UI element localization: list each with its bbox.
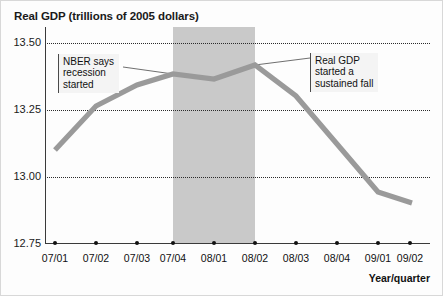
x-axis-title: Year/quarter xyxy=(369,272,430,284)
xtick-label-4: 08/01 xyxy=(201,252,227,264)
nber-annotation-line-2: recession xyxy=(63,67,114,78)
ytick-label: 13.50 xyxy=(13,36,41,48)
xtick-dot xyxy=(53,241,57,245)
xtick-dot xyxy=(135,241,139,245)
xtick-dot xyxy=(376,241,380,245)
chart-title: Real GDP (trillions of 2005 dollars) xyxy=(14,10,199,22)
xtick-dot xyxy=(212,241,216,245)
xtick-dot xyxy=(335,241,339,245)
xtick-label-1: 07/02 xyxy=(83,252,109,264)
xtick-label-3: 07/04 xyxy=(160,252,186,264)
xtick-dot xyxy=(253,241,257,245)
xtick-dot xyxy=(171,241,175,245)
sustained-fall-annotation-line-1: Real GDP xyxy=(315,55,373,66)
xtick-dot xyxy=(94,241,98,245)
xtick-label-7: 08/04 xyxy=(324,252,350,264)
xtick-dot xyxy=(294,241,298,245)
ytick-label: 13.25 xyxy=(13,103,41,115)
ytick-label: 13.00 xyxy=(13,170,41,182)
nber-annotation-line-1: NBER says xyxy=(63,56,114,67)
nber-annotation-line-3: started xyxy=(63,79,114,90)
ytick-label: 12.75 xyxy=(13,237,41,249)
sustained-fall-annotation: Real GDP started a sustained fall xyxy=(310,53,378,92)
xtick-label-9: 09/02 xyxy=(397,252,423,264)
xtick-dot xyxy=(408,241,412,245)
xtick-label-5: 08/02 xyxy=(242,252,268,264)
sustained-fall-annotation-line-2: started a xyxy=(315,66,373,77)
xtick-label-8: 09/01 xyxy=(365,252,391,264)
xtick-label-0: 07/01 xyxy=(42,252,68,264)
sustained-fall-annotation-line-3: sustained fall xyxy=(315,78,373,89)
xtick-label-2: 07/03 xyxy=(124,252,150,264)
xtick-label-6: 08/03 xyxy=(283,252,309,264)
gdp-line-chart-figure: Real GDP (trillions of 2005 dollars) 13.… xyxy=(0,0,443,296)
nber-annotation: NBER says recession started xyxy=(58,54,119,93)
